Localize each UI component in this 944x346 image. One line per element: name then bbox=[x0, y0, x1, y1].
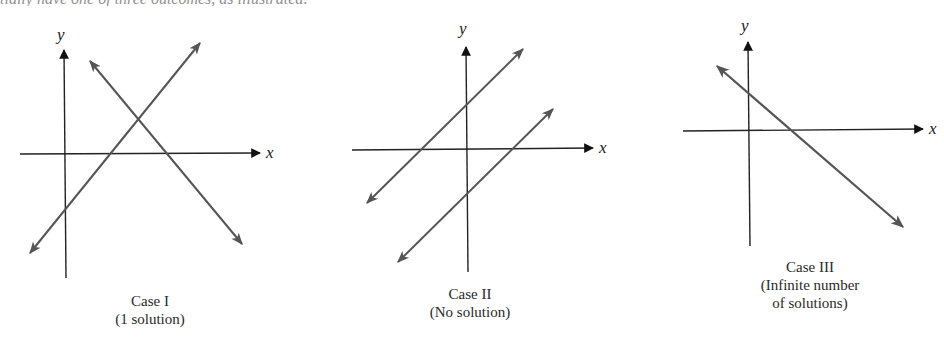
case-1-y-axis bbox=[64, 50, 66, 278]
case-2-y-axis bbox=[466, 47, 468, 272]
case-2-x-axis bbox=[352, 148, 593, 150]
case-2-title: Case II bbox=[405, 285, 535, 303]
case-1-x-axis bbox=[20, 153, 260, 154]
case-3-caption: Case III (Infinite number of solutions) bbox=[735, 258, 885, 312]
case-3-title: Case III bbox=[735, 258, 885, 276]
case-3-y-axis bbox=[748, 42, 750, 246]
case-3-y-label: y bbox=[739, 16, 749, 35]
case-2-y-label: y bbox=[457, 19, 467, 38]
case-1-title: Case I bbox=[90, 292, 210, 310]
case-1-x-label: x bbox=[265, 143, 274, 162]
case-3-subtitle-line1: (Infinite number bbox=[735, 276, 885, 294]
case-1-y-label: y bbox=[55, 25, 65, 44]
case-3-line-coincident bbox=[717, 66, 903, 227]
case-1-graph: y x bbox=[20, 25, 274, 278]
case-2-caption: Case II (No solution) bbox=[405, 285, 535, 321]
case-3-graph: y x bbox=[683, 16, 937, 246]
case-2-x-label: x bbox=[598, 138, 607, 157]
case-3-subtitle-line2: of solutions) bbox=[735, 294, 885, 312]
case-2-subtitle: (No solution) bbox=[405, 303, 535, 321]
case-2-line-lower bbox=[398, 109, 553, 262]
case-1-subtitle: (1 solution) bbox=[90, 310, 210, 328]
case-3-x-axis bbox=[683, 129, 923, 131]
case-3-x-label: x bbox=[928, 119, 937, 138]
case-2-line-upper bbox=[367, 49, 523, 203]
case-1-line-rising bbox=[30, 43, 200, 253]
case-1-caption: Case I (1 solution) bbox=[90, 292, 210, 328]
case-2-graph: y x bbox=[352, 19, 607, 272]
